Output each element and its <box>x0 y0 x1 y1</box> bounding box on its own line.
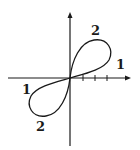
label-lower-bottom: 2 <box>36 119 45 134</box>
curve-lobe-upper <box>70 40 111 78</box>
curve-lobe-lower <box>29 78 70 116</box>
label-upper-right: 1 <box>116 57 125 72</box>
y-axis-arrow-icon <box>68 12 73 18</box>
diagram-canvas: 2 1 1 2 <box>0 0 140 150</box>
x-axis-arrow-icon <box>125 76 131 81</box>
label-upper-top: 2 <box>91 23 100 38</box>
label-lower-left: 1 <box>22 82 31 97</box>
